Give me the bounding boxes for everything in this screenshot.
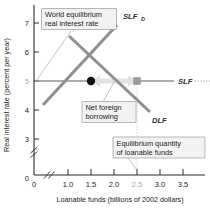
net-foreign-borrowing-leader-line (103, 82, 114, 102)
x-tick-label-0: 0 (32, 180, 36, 189)
y-tick-label-7: 7 (25, 19, 29, 28)
y-tick-labels-group: 7 6 5 4 3 0 (25, 19, 29, 183)
x-tick-label-2-5: 2.5 (132, 180, 143, 189)
net-foreign-borrowing-callout-line1: Net foreign (86, 103, 122, 112)
x-tick-label-1-0: 1.0 (63, 180, 74, 189)
dlf-demand-curve (69, 36, 150, 112)
x-tick-label-1-5: 1.5 (86, 180, 97, 189)
world-equilibrium-callout-line2: real interest rate (45, 19, 98, 28)
x-tick-label-3-0: 3.0 (155, 180, 166, 189)
y-tick-label-5: 5 (25, 77, 29, 86)
y-tick-label-0: 0 (25, 174, 29, 183)
y-tick-label-3: 3 (25, 135, 29, 144)
net-foreign-borrowing-callout: Net foreign borrowing (82, 82, 136, 123)
equilibrium-quantity-callout-line2: of loanable funds (117, 148, 174, 157)
slf-d-curve-label-text: SLF (123, 12, 138, 21)
domestic-supply-point-marker (87, 77, 95, 85)
equilibrium-quantity-leader-line (128, 158, 137, 170)
x-ticks-group (68, 169, 183, 175)
dlf-curve-label: DLF (152, 116, 167, 125)
x-tick-label-3-5: 3.5 (178, 180, 189, 189)
slf-d-curve-label: SLF D (123, 12, 145, 22)
equilibrium-quantity-callout-line1: Equilibrium quantity (117, 139, 182, 148)
world-equilibrium-callout-line1: World equilibrium (45, 10, 102, 19)
world-equilibrium-leader-line (36, 31, 71, 81)
x-tick-labels-group: 0 1.0 1.5 2.0 2.5 3.0 3.5 (32, 180, 188, 189)
y-tick-label-6: 6 (25, 48, 29, 57)
equilibrium-quantity-callout: Equilibrium quantity of loanable funds (113, 137, 205, 170)
slf-d-domestic-supply-curve (43, 25, 117, 105)
slf-d-curve-label-subscript: D (141, 16, 145, 22)
chart-figure: 7 6 5 4 3 0 0 1.0 1.5 2.0 2.5 3.0 3.5 Lo… (0, 0, 210, 209)
x-axis-title: Loanable funds (billions of 2002 dollars… (56, 195, 183, 204)
loanable-funds-chart-svg: 7 6 5 4 3 0 0 1.0 1.5 2.0 2.5 3.0 3.5 Lo… (0, 0, 210, 209)
net-foreign-borrowing-callout-line2: borrowing (86, 112, 118, 121)
slf-curve-label: SLF (178, 77, 193, 86)
equilibrium-quantity-point-marker (133, 77, 141, 85)
x-tick-label-2-0: 2.0 (109, 180, 120, 189)
y-tick-label-4: 4 (25, 106, 29, 115)
y-axis-title: Real interest rate (percent per year) (2, 38, 11, 152)
